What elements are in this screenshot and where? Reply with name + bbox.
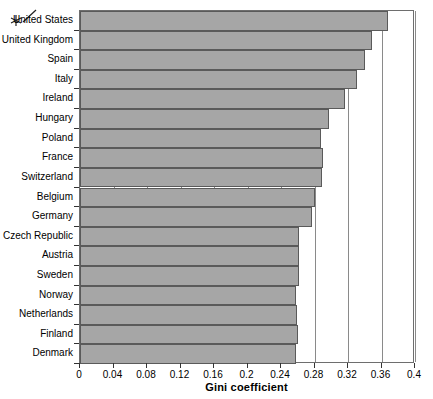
bar-row [80,207,415,227]
bar-row [80,305,415,325]
category-label: Hungary [35,113,73,123]
category-axis-labels: United StatesUnited KingdomSpainItalyIre… [0,10,76,363]
y-axis-tick [74,285,79,286]
bar [80,11,388,31]
bar [80,129,321,149]
x-axis-tick-label: 0.04 [103,369,122,380]
bar [80,305,297,325]
x-axis-tick [280,363,281,368]
bar [80,148,323,168]
category-label: Finland [40,329,73,339]
y-axis-tick [74,343,79,344]
y-axis-tick [74,69,79,70]
bar-row [80,227,415,247]
bar [80,31,372,51]
bar-row [80,286,415,306]
x-axis-tick [414,363,415,368]
category-label: Belgium [37,192,73,202]
category-label: Denmark [32,348,73,358]
bar [80,50,365,70]
y-axis-tick [74,147,79,148]
x-axis-tick-label: 0.36 [371,369,390,380]
category-label: Sweden [37,270,73,280]
category-label: Spain [47,54,73,64]
gridline [415,11,416,362]
category-label: United States [13,15,73,25]
bar-row [80,168,415,188]
x-axis-tick [213,363,214,368]
bar-row [80,31,415,51]
bar [80,325,298,345]
bar-row [80,266,415,286]
category-label: Netherlands [19,309,73,319]
category-label: United Kingdom [2,35,73,45]
bar [80,207,312,227]
bar-row [80,325,415,345]
x-axis-tick [314,363,315,368]
category-label: Poland [42,133,73,143]
y-axis-tick [74,265,79,266]
x-axis-tick-label: 0.4 [407,369,421,380]
y-axis-tick [74,128,79,129]
category-label: France [42,152,73,162]
y-axis-tick [74,30,79,31]
y-axis-tick [74,187,79,188]
bar [80,168,322,188]
category-label: Switzerland [21,172,73,182]
category-label: Austria [42,250,73,260]
x-axis-tick-label: 0.2 [240,369,254,380]
x-axis-tick-label: 0.08 [136,369,155,380]
x-axis-tick-label: 0 [76,369,82,380]
bar-row [80,129,415,149]
bar-row [80,50,415,70]
x-axis-tick [247,363,248,368]
bar-row [80,188,415,208]
bar [80,344,296,364]
bar-row [80,11,415,31]
y-axis-tick [74,108,79,109]
bar [80,266,299,286]
x-axis-tick-label: 0.32 [337,369,356,380]
x-axis-tick-label: 0.28 [304,369,323,380]
y-axis-tick [74,304,79,305]
bar-row [80,344,415,364]
category-label: Czech Republic [3,231,73,241]
bar-row [80,109,415,129]
bar [80,109,329,129]
x-axis-ticks: 00.040.080.120.160.20.240.280.320.360.4 [79,363,415,371]
y-axis-tick [74,245,79,246]
y-axis-tick [74,324,79,325]
x-axis-tick [146,363,147,368]
bar [80,70,357,90]
y-axis-tick [74,363,79,364]
x-axis-tick-label: 0.16 [203,369,222,380]
category-label: Italy [55,74,73,84]
bar-row [80,70,415,90]
x-axis-tick [79,363,80,368]
y-axis-tick [74,226,79,227]
bar-row [80,148,415,168]
y-axis-tick [74,206,79,207]
category-label: Ireland [42,93,73,103]
gini-coefficient-bar-chart: United StatesUnited KingdomSpainItalyIre… [0,0,433,399]
bar-row [80,89,415,109]
category-label: Germany [32,211,73,221]
x-axis-title: Gini coefficient [0,381,433,393]
y-axis-tick [74,49,79,50]
plot-area [79,10,414,363]
x-axis-tick-label: 0.24 [270,369,289,380]
x-axis-tick-label: 0.12 [170,369,189,380]
y-axis-tick [74,167,79,168]
bar [80,246,299,266]
bar [80,188,315,208]
x-axis-tick [381,363,382,368]
bar [80,227,299,247]
x-axis-tick [180,363,181,368]
x-axis-title-label: Gini coefficient [205,381,288,393]
bar-row [80,246,415,266]
y-axis-tick [74,88,79,89]
x-axis-tick [347,363,348,368]
category-label: Norway [39,290,73,300]
bar [80,286,296,306]
x-axis-tick [113,363,114,368]
